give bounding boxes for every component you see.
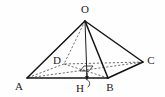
pyramid-figure: OABCDH — [0, 0, 165, 97]
vertex-label-c: C — [147, 54, 154, 66]
vertex-label-a: A — [15, 80, 23, 92]
vertex-label-d: D — [53, 54, 61, 66]
vertex-label-b: B — [106, 81, 113, 93]
pyramid-svg: OABCDH — [0, 0, 165, 97]
vertex-label-h: H — [76, 82, 84, 94]
vertex-label-o: O — [81, 3, 89, 15]
